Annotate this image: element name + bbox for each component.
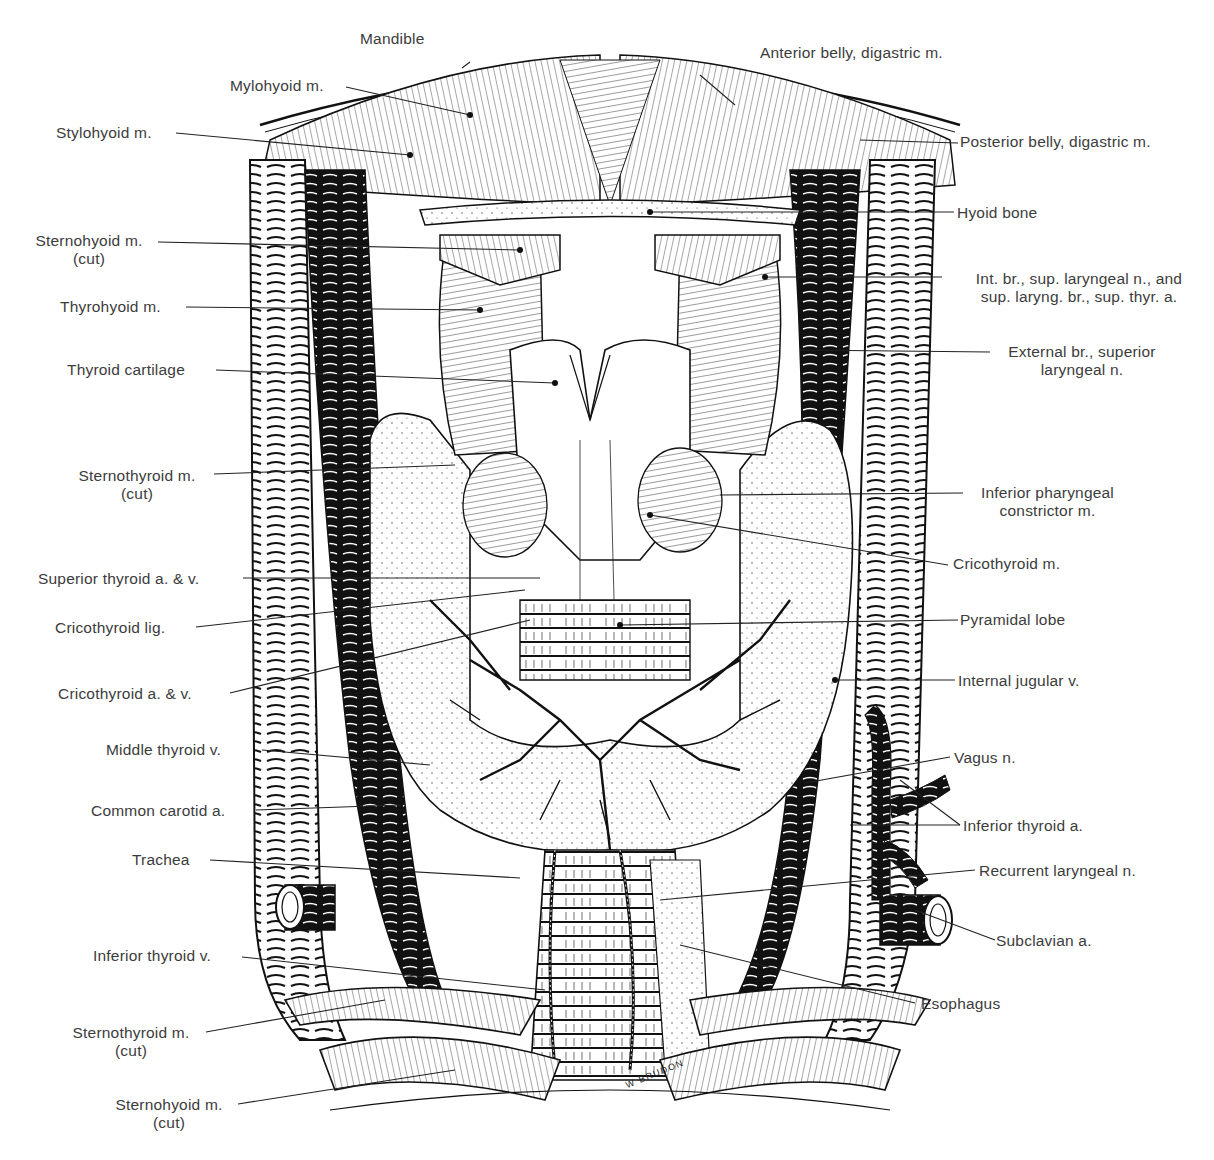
label-subtext: (cut) <box>24 250 154 268</box>
label-inferior-thyroid-v: Inferior thyroid v. <box>93 947 211 965</box>
label-cricothyroid-m: Cricothyroid m. <box>953 555 1060 573</box>
label-posterior-belly-digastric: Posterior belly, digastric m. <box>960 133 1151 151</box>
label-subclavian-a: Subclavian a. <box>996 932 1092 950</box>
label-superior-thyroid-av: Superior thyroid a. & v. <box>38 570 199 588</box>
label-text: Sternothyroid m. <box>60 1024 202 1042</box>
label-stylohyoid: Stylohyoid m. <box>56 124 152 142</box>
label-int-br-sup-laryngeal: Int. br., sup. laryngeal n., and sup. la… <box>948 270 1210 306</box>
label-inferior-pharyngeal-constrictor: Inferior pharyngeal constrictor m. <box>965 484 1130 520</box>
label-recurrent-laryngeal-n: Recurrent laryngeal n. <box>979 862 1136 880</box>
label-internal-jugular-v: Internal jugular v. <box>958 672 1080 690</box>
label-text: Inferior pharyngeal <box>965 484 1130 502</box>
label-mandible: Mandible <box>360 30 425 48</box>
label-hyoid-bone: Hyoid bone <box>957 204 1037 222</box>
label-sternohyoid-cut-bottom: Sternohyoid m. (cut) <box>104 1096 234 1132</box>
label-anterior-belly-digastric: Anterior belly, digastric m. <box>760 44 943 62</box>
label-thyroid-cartilage: Thyroid cartilage <box>67 361 185 379</box>
anatomy-figure: Mandible Anterior belly, digastric m. My… <box>0 0 1214 1160</box>
label-text: Sternohyoid m. <box>104 1096 234 1114</box>
label-subtext: constrictor m. <box>965 502 1130 520</box>
label-mylohyoid: Mylohyoid m. <box>230 77 324 95</box>
label-cricothyroid-lig: Cricothyroid lig. <box>55 619 165 637</box>
label-external-br-superior-laryngeal: External br., superior laryngeal n. <box>990 343 1174 379</box>
label-sternohyoid-cut-top: Sternohyoid m. (cut) <box>24 232 154 268</box>
cricoid-cartilage <box>520 600 690 680</box>
left-subclavian-artery <box>276 885 335 930</box>
label-trachea: Trachea <box>132 851 190 869</box>
label-middle-thyroid-v: Middle thyroid v. <box>106 741 221 759</box>
label-inferior-thyroid-a: Inferior thyroid a. <box>963 817 1083 835</box>
label-thyrohyoid: Thyrohyoid m. <box>60 298 161 316</box>
label-vagus-n: Vagus n. <box>954 749 1016 767</box>
label-cricothyroid-av: Cricothyroid a. & v. <box>58 685 192 703</box>
label-text: Sternothyroid m. <box>66 467 208 485</box>
label-subtext: (cut) <box>66 485 208 503</box>
label-subtext: (cut) <box>60 1042 202 1060</box>
label-common-carotid: Common carotid a. <box>91 802 225 820</box>
label-esophagus: Esophagus <box>921 995 1000 1013</box>
label-pyramidal-lobe: Pyramidal lobe <box>960 611 1065 629</box>
label-subtext: laryngeal n. <box>990 361 1174 379</box>
label-subtext: (cut) <box>104 1114 234 1132</box>
label-subtext: sup. laryng. br., sup. thyr. a. <box>948 288 1210 306</box>
label-text: External br., superior <box>990 343 1174 361</box>
label-text: Int. br., sup. laryngeal n., and <box>948 270 1210 288</box>
label-text: Sternohyoid m. <box>24 232 154 250</box>
label-sternothyroid-cut-top: Sternothyroid m. (cut) <box>66 467 208 503</box>
label-sternothyroid-cut-bottom: Sternothyroid m. (cut) <box>60 1024 202 1060</box>
